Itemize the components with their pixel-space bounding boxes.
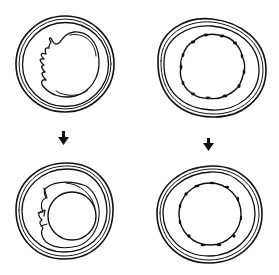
outer-ring	[157, 166, 262, 263]
panel-bottom-left	[16, 163, 113, 259]
left-arrow	[58, 131, 69, 145]
diagram-canvas	[0, 0, 279, 275]
scalloped-inner-circle	[180, 34, 246, 100]
down-arrow-icon	[62, 131, 65, 138]
panel-top-left	[16, 16, 114, 112]
inner-lumen	[48, 192, 96, 240]
panel-bottom-right	[157, 166, 262, 263]
outer-ring	[158, 19, 266, 117]
folded-inner-membrane	[40, 32, 99, 97]
right-arrow	[203, 138, 214, 151]
panel-top-right	[158, 19, 266, 117]
inner-circle-with-nodules	[179, 182, 242, 246]
outer-ring	[16, 163, 113, 259]
